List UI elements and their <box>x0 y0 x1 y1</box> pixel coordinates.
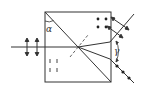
optic-axis-dots <box>97 18 108 29</box>
optic-axis-lines <box>50 59 57 72</box>
alpha-arc <box>45 21 54 22</box>
refracted-ray-lower <box>78 47 110 59</box>
prism-diagram: α γ <box>0 0 146 91</box>
lower-polarization-dots <box>115 64 130 79</box>
alpha-label: α <box>46 24 52 34</box>
upper-polarization-arrows <box>107 17 129 38</box>
gamma-label: γ <box>114 46 120 56</box>
refracted-ray-upper <box>78 42 110 47</box>
